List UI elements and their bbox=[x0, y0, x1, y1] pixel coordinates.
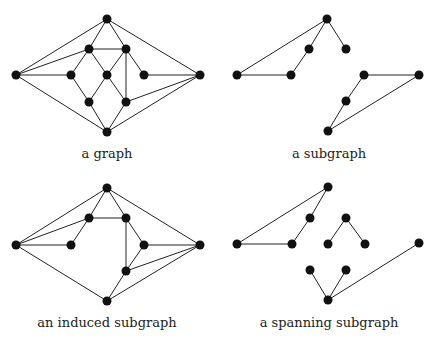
vertex-left bbox=[233, 71, 242, 80]
edge-uri-midright bbox=[126, 218, 144, 245]
vertex-uri bbox=[342, 214, 351, 223]
edge-lli-bottom bbox=[310, 270, 328, 300]
edge-uri-midright bbox=[346, 218, 365, 244]
vertex-lri bbox=[122, 98, 131, 107]
panel-subgraph bbox=[233, 15, 424, 136]
vertex-bottom bbox=[103, 297, 112, 306]
vertex-midright bbox=[140, 241, 149, 250]
edge-midright-lri bbox=[126, 245, 144, 271]
edge-bottom-right bbox=[328, 75, 419, 131]
edge-left-bottom bbox=[16, 75, 107, 132]
edge-lri-bottom bbox=[107, 271, 126, 301]
vertex-lli bbox=[306, 266, 315, 275]
vertex-bottom bbox=[103, 128, 112, 137]
edge-left-top bbox=[237, 19, 327, 75]
panel-spanning-subgraph bbox=[233, 183, 424, 305]
vertex-right bbox=[196, 71, 205, 80]
edge-top-uri bbox=[107, 188, 126, 218]
edge-center-lri bbox=[107, 75, 126, 102]
caption-spanning-subgraph: a spanning subgraph bbox=[260, 315, 399, 330]
vertex-right bbox=[415, 239, 424, 248]
edge-top-uli bbox=[309, 19, 327, 49]
vertex-lri bbox=[342, 97, 351, 106]
edge-left-top bbox=[16, 19, 107, 75]
vertex-uri bbox=[122, 45, 131, 54]
edge-top-uli bbox=[310, 187, 328, 218]
vertex-right bbox=[196, 241, 205, 250]
edge-center-lli bbox=[89, 75, 107, 102]
edge-uri-center bbox=[107, 49, 126, 75]
vertex-top bbox=[103, 184, 112, 193]
vertex-left bbox=[233, 240, 242, 249]
edge-top-uli bbox=[89, 188, 107, 218]
edge-uri-midright bbox=[126, 49, 144, 75]
edge-left-top bbox=[16, 188, 107, 245]
edge-top-right bbox=[107, 19, 200, 75]
vertex-center bbox=[324, 240, 333, 249]
vertex-top bbox=[103, 15, 112, 24]
panel-induced-subgraph bbox=[12, 184, 205, 306]
edge-uli-midleft bbox=[292, 218, 310, 244]
edge-top-right bbox=[107, 188, 200, 245]
vertex-lri bbox=[342, 266, 351, 275]
vertex-uli bbox=[306, 214, 315, 223]
edge-midright-lri bbox=[346, 75, 364, 101]
edge-top-uri bbox=[327, 19, 346, 49]
edge-lri-bottom bbox=[107, 102, 126, 132]
vertex-lli bbox=[85, 98, 94, 107]
vertex-bottom bbox=[324, 296, 333, 305]
edge-lri-bottom bbox=[328, 101, 346, 131]
vertex-center bbox=[103, 71, 112, 80]
vertex-left bbox=[12, 71, 21, 80]
vertex-uri bbox=[342, 45, 351, 54]
vertex-uli bbox=[305, 45, 314, 54]
edge-top-uli bbox=[89, 19, 107, 49]
vertex-bottom bbox=[324, 127, 333, 136]
vertex-lri bbox=[122, 267, 131, 276]
edge-uli-midleft bbox=[291, 49, 309, 75]
vertex-midleft bbox=[67, 241, 76, 250]
vertex-top bbox=[324, 183, 333, 192]
vertex-midleft bbox=[287, 71, 296, 80]
edge-bottom-right bbox=[107, 245, 200, 301]
edge-midleft-lli bbox=[71, 75, 89, 102]
vertex-midleft bbox=[67, 71, 76, 80]
vertex-left bbox=[12, 241, 21, 250]
caption-graph: a graph bbox=[82, 146, 133, 161]
edge-top-uri bbox=[107, 19, 126, 49]
edge-uli-midleft bbox=[71, 218, 89, 245]
edge-bottom-right bbox=[328, 243, 419, 300]
vertex-midright bbox=[361, 240, 370, 249]
vertex-top bbox=[323, 15, 332, 24]
edge-lli-bottom bbox=[89, 102, 107, 132]
edge-uri-center bbox=[328, 218, 346, 244]
vertex-midright bbox=[360, 71, 369, 80]
vertex-uri bbox=[122, 214, 131, 223]
edge-uli-center bbox=[89, 49, 107, 75]
edge-uli-midleft bbox=[71, 49, 89, 75]
panel-graph bbox=[12, 15, 205, 137]
vertex-midright bbox=[140, 71, 149, 80]
edge-left-top bbox=[237, 187, 328, 244]
vertex-uli bbox=[85, 214, 94, 223]
vertex-right bbox=[415, 71, 424, 80]
vertex-midleft bbox=[288, 240, 297, 249]
vertex-uli bbox=[85, 45, 94, 54]
caption-induced-subgraph: an induced subgraph bbox=[37, 315, 177, 330]
edge-left-bottom bbox=[16, 245, 107, 301]
edge-bottom-right bbox=[107, 75, 200, 132]
graph-figure: a graph a subgraph an induced subgraph a… bbox=[0, 0, 436, 340]
caption-subgraph: a subgraph bbox=[292, 146, 367, 161]
edge-lri-bottom bbox=[328, 270, 346, 300]
